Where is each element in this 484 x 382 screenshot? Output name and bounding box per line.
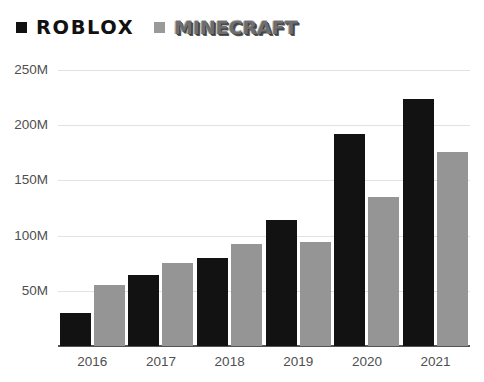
bar-group xyxy=(264,70,332,346)
bar-roblox-2021[interactable] xyxy=(403,99,434,346)
y-axis-tick-label: 200M xyxy=(0,118,48,132)
y-axis-tick-label: 50M xyxy=(0,284,48,298)
x-axis-tick-label: 2021 xyxy=(402,352,470,376)
bar-group xyxy=(402,70,470,346)
bar-group xyxy=(127,70,195,346)
legend-swatch-roblox xyxy=(16,22,27,33)
plot-area xyxy=(58,70,470,346)
legend-item-minecraft[interactable]: MINECRAFT xyxy=(154,14,292,40)
x-axis-labels: 201620172018201920202021 xyxy=(58,352,470,376)
y-axis-tick-label: 250M xyxy=(0,63,48,77)
bar-groups xyxy=(58,70,470,346)
bar-minecraft-2019[interactable] xyxy=(300,242,331,346)
bar-minecraft-2021[interactable] xyxy=(437,152,468,346)
x-axis-tick-label: 2016 xyxy=(58,352,126,376)
bar-minecraft-2018[interactable] xyxy=(231,244,262,346)
y-axis-tick-label: 150M xyxy=(0,173,48,187)
bar-group xyxy=(196,70,264,346)
bar-roblox-2018[interactable] xyxy=(197,258,228,346)
bar-group xyxy=(58,70,126,346)
x-axis-tick-label: 2019 xyxy=(264,352,332,376)
x-axis-tick-label: 2017 xyxy=(127,352,195,376)
bar-group xyxy=(333,70,401,346)
bar-roblox-2016[interactable] xyxy=(60,313,91,346)
legend-item-roblox[interactable]: ROBLOX xyxy=(16,14,132,40)
bar-roblox-2017[interactable] xyxy=(128,275,159,346)
bar-minecraft-2020[interactable] xyxy=(368,197,399,346)
bar-chart: ROBLOX MINECRAFT 50M100M150M200M250M 201… xyxy=(0,0,484,382)
legend-swatch-minecraft xyxy=(154,22,165,33)
roblox-logo: ROBLOX xyxy=(36,17,134,37)
y-axis-tick-label: 100M xyxy=(0,229,48,243)
chart-legend: ROBLOX MINECRAFT xyxy=(16,14,292,40)
y-axis-labels: 50M100M150M200M250M xyxy=(0,70,48,346)
bar-minecraft-2017[interactable] xyxy=(162,263,193,346)
x-axis-tick-label: 2018 xyxy=(196,352,264,376)
minecraft-logo: MINECRAFT xyxy=(174,18,298,37)
x-axis-tick-label: 2020 xyxy=(333,352,401,376)
bar-minecraft-2016[interactable] xyxy=(94,285,125,346)
bar-roblox-2020[interactable] xyxy=(334,134,365,346)
bar-roblox-2019[interactable] xyxy=(266,220,297,346)
